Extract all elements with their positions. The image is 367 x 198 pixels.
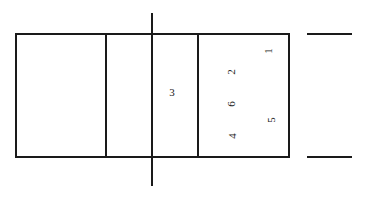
position-label-6: 6: [225, 101, 237, 107]
position-label-3: 3: [169, 86, 175, 98]
position-label-2: 2: [225, 69, 237, 75]
position-label-4: 4: [226, 133, 238, 139]
player-positions: 123654: [169, 48, 277, 139]
volleyball-court-diagram: 123654: [0, 0, 367, 198]
position-label-1: 1: [262, 48, 274, 54]
position-label-5: 5: [265, 117, 277, 123]
